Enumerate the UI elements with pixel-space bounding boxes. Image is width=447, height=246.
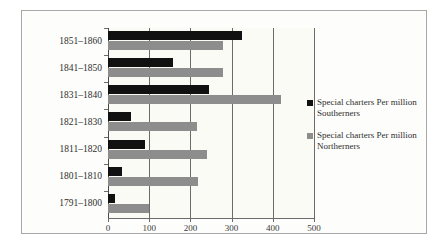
x-tick-0 — [108, 218, 109, 222]
x-tick-label-400: 400 — [266, 223, 280, 233]
x-tick-100 — [149, 218, 150, 222]
bar-northerners — [108, 150, 207, 159]
x-tick-500 — [314, 218, 315, 222]
bar-southerners — [108, 31, 242, 40]
bar-southerners — [108, 194, 115, 203]
plot-area — [108, 28, 314, 218]
category-label: 1851–1860 — [22, 36, 102, 46]
x-tick-label-0: 0 — [106, 223, 111, 233]
x-tick-label-500: 500 — [307, 223, 321, 233]
x-tick-300 — [232, 218, 233, 222]
x-tick-label-300: 300 — [225, 223, 239, 233]
bar-row — [108, 191, 314, 218]
bar-row — [108, 137, 314, 164]
legend-label: Special charters Per million Southerners — [317, 97, 419, 119]
bar-southerners — [108, 85, 209, 94]
bar-southerners — [108, 112, 131, 121]
bar-row — [108, 55, 314, 82]
bar-northerners — [108, 177, 198, 186]
category-label: 1791–1800 — [22, 198, 102, 208]
chart-frame: 1851–18601841–18501831–18401821–18301811… — [21, 10, 427, 234]
legend-swatch-northerners — [307, 133, 313, 139]
bar-southerners — [108, 58, 173, 67]
category-label: 1811–1820 — [22, 144, 102, 154]
legend-item: Special charters Per million Southerners — [307, 97, 419, 119]
chart-legend: Special charters Per million Southerners… — [307, 97, 419, 163]
bar-southerners — [108, 140, 145, 149]
bar-northerners — [108, 95, 281, 104]
bar-northerners — [108, 41, 223, 50]
bar-northerners — [108, 68, 223, 77]
bar-row — [108, 109, 314, 136]
category-label: 1831–1840 — [22, 90, 102, 100]
category-label: 1841–1850 — [22, 63, 102, 73]
x-tick-label-100: 100 — [142, 223, 156, 233]
category-label: 1821–1830 — [22, 117, 102, 127]
bar-row — [108, 164, 314, 191]
x-tick-label-200: 200 — [184, 223, 198, 233]
legend-swatch-southerners — [307, 100, 313, 106]
category-label: 1801–1810 — [22, 171, 102, 181]
legend-item: Special charters Per million Northerners — [307, 130, 419, 152]
bar-row — [108, 28, 314, 55]
x-tick-200 — [190, 218, 191, 222]
bar-southerners — [108, 167, 122, 176]
bar-northerners — [108, 122, 197, 131]
bar-northerners — [108, 204, 149, 213]
legend-label: Special charters Per million Northerners — [317, 130, 419, 152]
bar-row — [108, 82, 314, 109]
x-axis-line — [108, 218, 314, 219]
x-tick-400 — [273, 218, 274, 222]
